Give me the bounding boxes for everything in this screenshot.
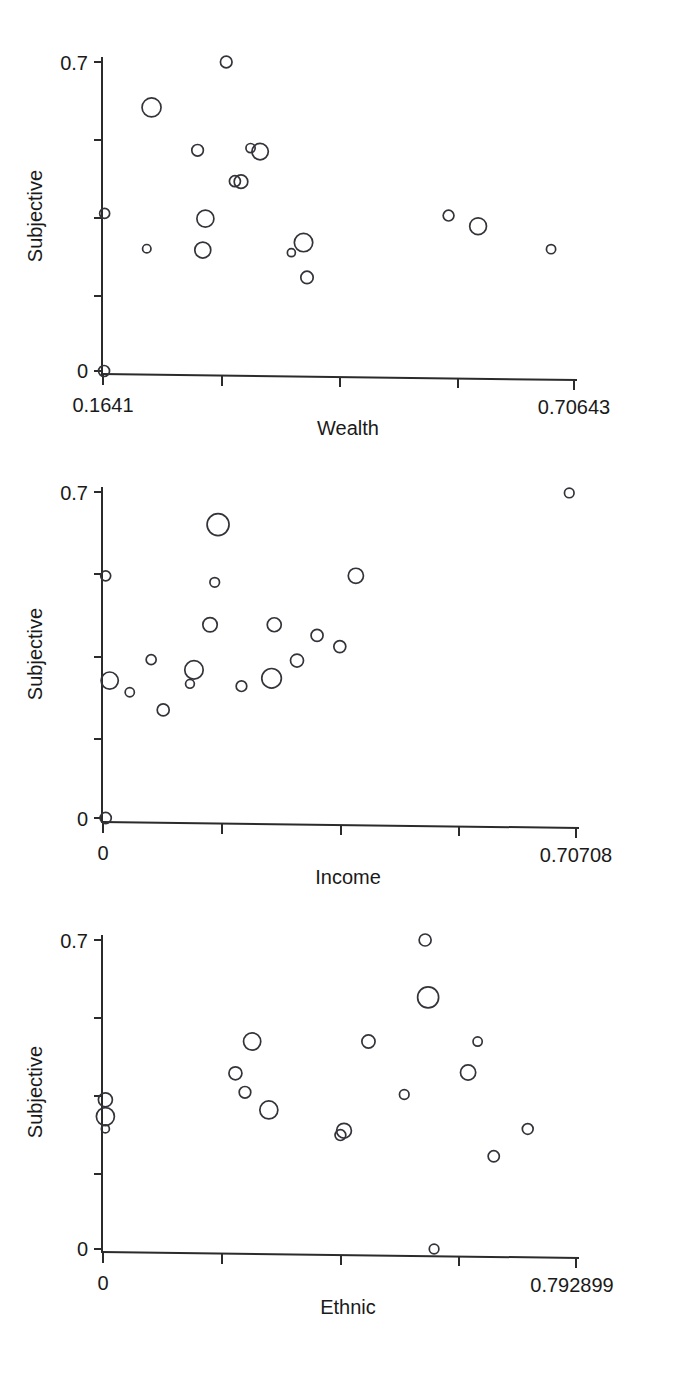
scatter-point (260, 1101, 278, 1119)
wealth-x-tick-min-label: 0.1641 (72, 394, 133, 416)
scatter-point (362, 1035, 375, 1048)
income-y-ticks (94, 492, 102, 818)
scatter-point (146, 655, 156, 665)
scatter-panel-wealth: 0.7 0 0.1641 0.70643 Wealth Subjective (0, 0, 685, 440)
scatter-point (460, 1065, 475, 1080)
scatter-point (207, 514, 229, 536)
ethnic-points-group (96, 934, 533, 1254)
scatter-point (192, 144, 204, 156)
income-x-tick-max-label: 0.70708 (540, 844, 612, 866)
scatter-point (220, 56, 232, 68)
income-x-axis-title: Income (315, 866, 381, 888)
wealth-y-tick-top-label: 0.7 (60, 52, 88, 74)
income-y-tick-bottom-label: 0 (77, 808, 88, 830)
ethnic-x-axis-title: Ethnic (320, 1296, 376, 1318)
wealth-points-group (99, 56, 556, 376)
scatter-panel-ethnic: 0.7 0 0 0.792899 Ethnic Subjective (0, 902, 685, 1378)
scatter-point (96, 1108, 114, 1126)
scatter-point (229, 1067, 242, 1080)
scatter-point (546, 245, 555, 254)
income-y-tick-top-label: 0.7 (60, 482, 88, 504)
scatter-point (470, 218, 487, 235)
ethnic-plot-svg: 0.7 0 0 0.792899 Ethnic Subjective (0, 902, 685, 1378)
scatter-point (186, 679, 195, 688)
income-x-tick-min-label: 0 (97, 842, 108, 864)
scatter-point (419, 934, 431, 946)
scatter-point (564, 488, 574, 498)
wealth-y-axis-title: Subjective (24, 170, 46, 262)
scatter-point (197, 210, 214, 227)
scatter-point (142, 98, 161, 117)
scatter-point (157, 704, 169, 716)
scatter-point (429, 1244, 439, 1254)
wealth-y-tick-bottom-label: 0 (77, 360, 88, 382)
ethnic-x-tick-min-label: 0 (97, 1272, 108, 1294)
scatter-point (185, 661, 203, 679)
scatter-point (98, 1093, 112, 1107)
scatter-point (195, 242, 211, 258)
income-y-axis-title: Subjective (24, 608, 46, 700)
scatter-point (267, 618, 281, 632)
scatter-point (143, 245, 151, 253)
wealth-plot-svg: 0.7 0 0.1641 0.70643 Wealth Subjective (0, 0, 685, 440)
scatter-point (244, 1033, 261, 1050)
scatter-point (301, 271, 313, 283)
income-points-group (100, 488, 574, 823)
scatter-point (246, 143, 255, 152)
scatter-point (203, 618, 217, 632)
wealth-x-tick-max-label: 0.70643 (538, 396, 610, 418)
scatter-point (294, 233, 312, 251)
income-plot-svg: 0.7 0 0 0.70708 Income Subjective (0, 440, 685, 902)
scatter-point (488, 1151, 499, 1162)
scatter-point (311, 629, 323, 641)
scatter-panel-income: 0.7 0 0 0.70708 Income Subjective (0, 440, 685, 902)
scatter-point (443, 210, 454, 221)
scatter-point (287, 249, 295, 257)
scatter-point (262, 668, 282, 688)
scatter-point (239, 1086, 251, 1098)
ethnic-y-tick-bottom-label: 0 (77, 1238, 88, 1260)
scatter-point (334, 641, 346, 653)
scatter-point (210, 578, 220, 588)
scatter-point (522, 1124, 533, 1135)
scatter-point (418, 987, 439, 1008)
ethnic-y-axis-title: Subjective (24, 1046, 46, 1138)
wealth-x-axis-title: Wealth (317, 417, 379, 439)
scatter-point (473, 1037, 482, 1046)
scatter-point (236, 681, 247, 692)
scatter-point (399, 1090, 409, 1100)
ethnic-y-tick-top-label: 0.7 (60, 930, 88, 952)
scatter-point (348, 568, 363, 583)
ethnic-x-tick-max-label: 0.792899 (530, 1274, 613, 1296)
scatter-point (125, 688, 134, 697)
scatter-point (291, 654, 304, 667)
scatter-point (101, 672, 118, 689)
